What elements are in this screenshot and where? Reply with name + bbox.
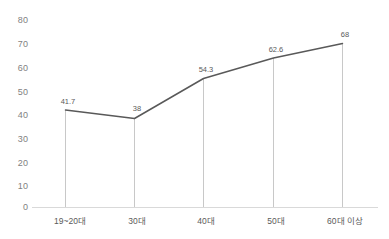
x-tick-label-5: 60대 이상 (327, 217, 363, 226)
x-tick-label-3: 40대 (197, 217, 214, 226)
line-chart: 80 70 60 50 40 30 20 10 0 19~20대 30대 40대… (0, 0, 389, 239)
y-tick-label-50: 50 (2, 88, 28, 97)
data-label-2: 38 (133, 105, 141, 113)
y-tick-label-30: 30 (2, 135, 28, 144)
data-label-3: 54.3 (199, 66, 214, 74)
data-label-5: 68 (341, 31, 349, 39)
data-label-4: 62.6 (269, 46, 284, 54)
y-tick-label-60: 60 (2, 64, 28, 73)
x-tick-label-4: 50대 (267, 217, 284, 226)
y-tick-label-70: 70 (2, 40, 28, 49)
chart-plot-area (0, 0, 389, 239)
y-tick-label-20: 20 (2, 159, 28, 168)
y-tick-label-0: 0 (2, 203, 28, 212)
y-tick-label-40: 40 (2, 111, 28, 120)
y-tick-label-80: 80 (2, 16, 28, 25)
data-label-1: 41.7 (61, 98, 76, 106)
x-tick-label-2: 30대 (128, 217, 145, 226)
y-tick-label-10: 10 (2, 182, 28, 191)
x-tick-label-1: 19~20대 (54, 217, 86, 226)
